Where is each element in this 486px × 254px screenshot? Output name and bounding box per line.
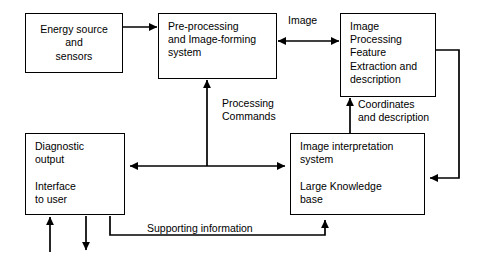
node-image-interpretation: Image interpretation system Large Knowle… (290, 133, 425, 215)
edge-label-processing-commands: Processing Commands (222, 97, 276, 123)
node-energy-source: Energy source and sensors (25, 13, 123, 73)
node-diagnostic-output: Diagnostic output Interface to user (25, 133, 125, 215)
node-image-processing: Image Processing Feature Extraction and … (340, 13, 436, 97)
edge-label-supporting-information: Supporting information (147, 222, 253, 235)
diagram-canvas: Energy source and sensors Pre-processing… (0, 0, 486, 254)
node-pre-processing: Pre-processing and Image-forming system (158, 13, 277, 79)
edge-label-image: Image (288, 14, 317, 27)
edge-label-coordinates-and-description: Coordinates and description (358, 98, 429, 124)
